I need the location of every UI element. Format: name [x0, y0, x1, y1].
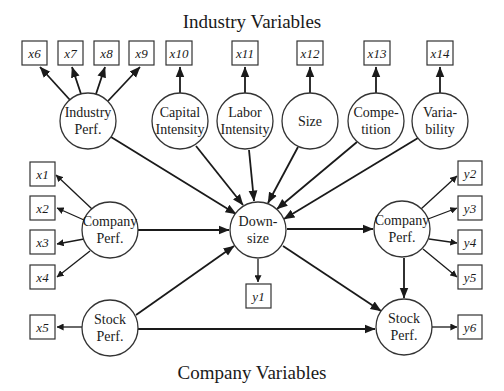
indicator-label: y5	[462, 270, 477, 285]
node-label: Perf.	[391, 328, 418, 343]
node-industry-perf: Industry Perf.	[60, 93, 116, 149]
node-label: Varia-	[423, 105, 458, 120]
node-label: Stock	[388, 311, 420, 326]
edge-company-perf-x3	[57, 239, 84, 244]
indicator-y6: y6	[458, 315, 482, 339]
node-label: Labor	[228, 105, 262, 120]
node-label: bility	[425, 122, 455, 137]
node-stock-perf-post: Stock Perf.	[376, 299, 432, 355]
node-label: Company	[83, 214, 137, 229]
node-capital-intensity: Capital Intensity	[152, 93, 208, 149]
title-company-variables: Company Variables	[178, 362, 327, 383]
edge-industry-perf-x8	[96, 67, 105, 94]
edge-company-perf-x4	[57, 251, 90, 277]
node-label: Perf.	[97, 329, 124, 344]
indicator-label: x3	[35, 235, 49, 250]
indicator-label: y3	[462, 201, 477, 216]
node-size: Size	[282, 93, 338, 149]
indicator-label: y6	[462, 320, 477, 335]
indicator-label: x13	[367, 46, 387, 61]
edge-capital-intensity-downsize	[196, 146, 243, 205]
indicator-x7: x7	[58, 41, 83, 65]
node-label: Compe-	[353, 105, 398, 120]
structural-equation-model-diagram: Industry Variables Company Variables	[0, 0, 504, 391]
indicator-x1: x1	[30, 162, 55, 186]
indicator-label: x2	[35, 201, 49, 216]
node-downsize: Down- size	[230, 202, 286, 258]
indicator-boxes: x6 x7 x8 x9 x10 x11 x12 x13	[22, 41, 482, 339]
node-label: Intensity	[156, 122, 205, 137]
indicator-y3: y3	[458, 196, 482, 220]
edge-downsize-stock-perf-post	[283, 246, 381, 311]
indicator-label: x6	[27, 46, 41, 61]
indicator-label: x9	[134, 46, 148, 61]
indicator-label: x4	[35, 270, 49, 285]
indicator-y2: y2	[458, 161, 482, 185]
indicator-label: x10	[169, 46, 189, 61]
node-competition: Compe- tition	[348, 93, 404, 149]
edge-company-perf-x1	[56, 175, 92, 209]
indicator-label: y4	[462, 235, 477, 250]
indicator-label: x14	[430, 46, 450, 61]
indicator-x9: x9	[129, 41, 154, 65]
indicator-x11: x11	[232, 41, 258, 65]
edge-stock-perf-downsize	[136, 246, 234, 315]
node-label: Industry	[65, 105, 112, 120]
indicator-x6: x6	[22, 41, 47, 65]
indicator-y5: y5	[458, 265, 482, 289]
node-company-perf-post: Company Perf.	[374, 201, 430, 257]
indicator-label: y1	[250, 289, 264, 304]
node-label: Stock	[94, 312, 126, 327]
node-variability: Varia- bility	[412, 93, 468, 149]
node-label: Perf.	[389, 230, 416, 245]
node-label: Intensity	[221, 122, 270, 137]
indicator-x8: x8	[94, 41, 119, 65]
indicator-x13: x13	[364, 41, 390, 65]
edge-company-perf-post-y3	[428, 208, 457, 219]
indicator-label: x8	[99, 46, 113, 61]
node-label: tition	[361, 122, 391, 137]
indicator-x3: x3	[30, 230, 55, 254]
indicator-x14: x14	[427, 41, 453, 65]
indicator-x2: x2	[30, 196, 55, 220]
latent-nodes: Industry Perf. Capital Intensity Labor I…	[60, 93, 468, 356]
node-label: Company	[375, 213, 429, 228]
indicator-x10: x10	[166, 41, 192, 65]
node-company-perf-pre: Company Perf.	[82, 202, 138, 258]
edge-company-perf-post-y2	[421, 176, 457, 209]
indicator-x12: x12	[297, 41, 323, 65]
title-industry-variables: Industry Variables	[183, 11, 321, 32]
edge-industry-perf-x6	[40, 67, 70, 100]
indicator-y4: y4	[458, 230, 482, 254]
node-label: Perf.	[97, 231, 124, 246]
indicator-label: y2	[462, 166, 477, 181]
indicator-label: x11	[235, 46, 254, 61]
node-label: Perf.	[75, 122, 102, 137]
indicator-label: x5	[35, 320, 49, 335]
indicator-label: x1	[35, 167, 48, 182]
edge-company-perf-x2	[57, 208, 84, 220]
edge-labor-intensity-downsize	[249, 150, 254, 201]
edge-company-perf-post-y4	[429, 239, 457, 243]
indicator-x5: x5	[30, 315, 55, 339]
node-label: Down-	[239, 214, 278, 229]
edge-industry-perf-x9	[108, 67, 140, 101]
node-stock-perf-pre: Stock Perf.	[82, 300, 138, 356]
node-labor-intensity: Labor Intensity	[217, 93, 273, 149]
node-label: Size	[298, 114, 322, 129]
indicator-label: x12	[300, 46, 320, 61]
indicator-x4: x4	[30, 265, 55, 289]
indicator-label: x7	[63, 46, 77, 61]
indicator-y1: y1	[246, 284, 271, 308]
node-label: size	[247, 231, 269, 246]
node-label: Capital	[160, 105, 201, 120]
edge-industry-perf-x7	[72, 67, 81, 94]
edge-company-perf-post-y5	[423, 249, 457, 277]
